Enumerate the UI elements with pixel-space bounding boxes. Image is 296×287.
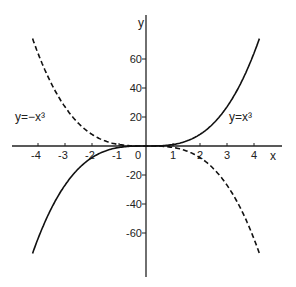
y-tick-label: 20	[130, 111, 142, 123]
y-tick-label: -20	[126, 169, 142, 181]
annotation-neg-cubic: y=−x³	[15, 110, 45, 124]
y-tick-label: 60	[130, 53, 142, 65]
x-tick-label: 0	[135, 149, 141, 161]
y-tick-label: -40	[126, 198, 142, 210]
cubic-chart: -4-3-2-101234-60-40-20204060 y x y=x³ y=…	[0, 0, 296, 287]
x-tick-label: -1	[112, 149, 122, 161]
annotation-cubic: y=x³	[229, 110, 252, 124]
x-tick-label: -3	[58, 149, 68, 161]
x-tick-label: 2	[197, 149, 203, 161]
x-tick-label: 1	[170, 149, 176, 161]
x-axis-label: x	[270, 149, 276, 163]
x-tick-label: -4	[31, 149, 41, 161]
y-tick-label: 40	[130, 82, 142, 94]
x-tick-label: 4	[251, 149, 257, 161]
y-axis-label: y	[138, 16, 144, 30]
x-tick-label: 3	[224, 149, 230, 161]
y-tick-label: -60	[126, 227, 142, 239]
